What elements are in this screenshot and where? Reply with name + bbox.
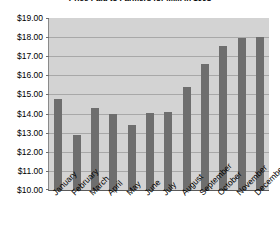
y-tick-label: $16.00 bbox=[17, 71, 43, 79]
y-tick-label: $13.00 bbox=[17, 129, 43, 137]
bar bbox=[183, 87, 191, 190]
plot-area bbox=[48, 18, 269, 191]
x-axis: JanuaryFebruaryMarchAprilMayJuneJulyAugu… bbox=[48, 191, 280, 244]
bar bbox=[54, 99, 62, 190]
y-tick-label: $10.00 bbox=[17, 186, 43, 194]
bar bbox=[238, 38, 246, 190]
y-tick-label: $17.00 bbox=[17, 52, 43, 60]
bar bbox=[164, 112, 172, 190]
y-tick-label: $19.00 bbox=[17, 14, 43, 22]
y-tick-label: $14.00 bbox=[17, 110, 43, 118]
y-tick-label: $15.00 bbox=[17, 90, 43, 98]
bar bbox=[201, 64, 209, 190]
y-tick-label: $18.00 bbox=[17, 33, 43, 41]
bars-group bbox=[49, 18, 269, 190]
bar-chart: Price Paid to Farmers for Milk in 1998 $… bbox=[0, 0, 280, 244]
y-tick-label: $11.00 bbox=[18, 167, 43, 175]
y-axis: $19.00$18.00$17.00$16.00$15.00$14.00$13.… bbox=[0, 0, 46, 244]
y-tick-label: $12.00 bbox=[17, 148, 43, 156]
